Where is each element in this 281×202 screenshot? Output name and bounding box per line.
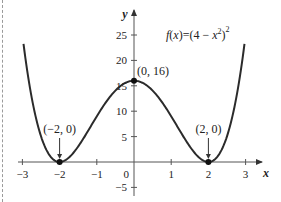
y-tick-label: 5 <box>122 131 128 143</box>
arrowhead-icon <box>57 154 62 159</box>
x-tick-label: 2 <box>206 168 212 180</box>
x-axis-label: x <box>262 166 269 180</box>
y-tick-label: 25 <box>116 29 128 41</box>
point-marker <box>57 159 63 165</box>
x-tick-label: 3 <box>243 168 249 180</box>
x-tick-label: −3 <box>17 168 29 180</box>
x-tick-label: −2 <box>54 168 66 180</box>
function-formula: f(x)=(4 − x2)2 <box>166 25 230 42</box>
y-tick-label: 10 <box>116 105 128 117</box>
x-tick-label: 1 <box>168 168 174 180</box>
labels: −3−2−11230−5510152025xy(−2, 0)(0, 16)(2,… <box>17 7 269 193</box>
point-marker <box>205 159 211 165</box>
point-label: (2, 0) <box>195 122 221 136</box>
y-tick-label: 15 <box>116 80 128 92</box>
function-graph: −3−2−11230−5510152025xy(−2, 0)(0, 16)(2,… <box>0 0 281 202</box>
y-tick-label: 20 <box>116 54 128 66</box>
y-axis-label: y <box>120 7 128 21</box>
origin-label: 0 <box>124 168 130 180</box>
y-tick-label: −5 <box>115 181 127 193</box>
point-marker <box>131 78 137 84</box>
arrowhead-icon <box>206 154 211 159</box>
point-label: (0, 16) <box>137 64 169 78</box>
x-tick-label: −1 <box>91 168 103 180</box>
point-label: (−2, 0) <box>43 122 76 136</box>
